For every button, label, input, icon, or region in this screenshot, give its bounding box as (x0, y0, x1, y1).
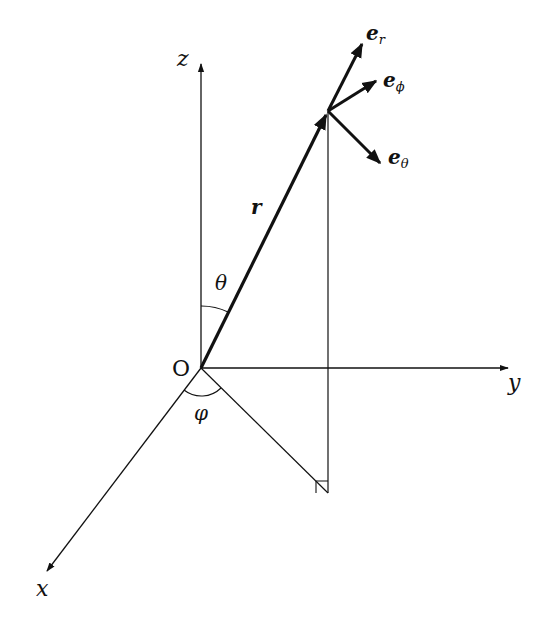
position-vector-r (201, 115, 326, 368)
origin-label: O (172, 356, 190, 381)
spherical-coordinates-diagram: z y x O r θ φ er eϕ eθ (0, 0, 550, 622)
e-r-label: er (366, 21, 386, 47)
unit-vector-e-theta (328, 111, 380, 163)
projection-radial-line (201, 368, 328, 493)
theta-label: θ (215, 271, 227, 295)
position-vector-label: r (251, 195, 263, 219)
x-axis (47, 368, 201, 571)
phi-angle-arc (184, 388, 221, 396)
theta-angle-arc (201, 306, 228, 312)
e-theta-label: eθ (388, 145, 409, 171)
z-axis-label: z (176, 46, 189, 71)
y-axis-label: y (507, 370, 521, 395)
x-axis-label: x (36, 576, 49, 601)
e-phi-label: eϕ (383, 68, 405, 94)
phi-label: φ (194, 401, 208, 425)
